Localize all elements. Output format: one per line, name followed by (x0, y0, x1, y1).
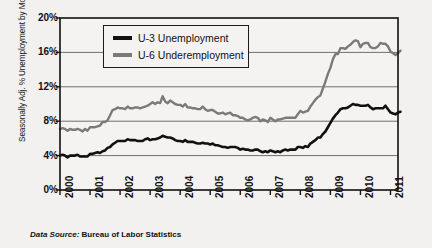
source-note: Data Source: Bureau of Labor Statistics (30, 230, 181, 239)
legend-swatch-u3 (113, 36, 132, 40)
x-tick-label: 2007 (275, 176, 285, 198)
legend-label-u3: U-3 Unemployment (138, 32, 228, 44)
x-tick-label: 2011 (395, 176, 405, 198)
source-note-text: Bureau of Labor Statistics (82, 230, 182, 239)
legend-item-u3: U-3 Unemployment (113, 30, 228, 46)
x-tick-label: 2010 (365, 176, 375, 198)
x-tick-label: 2004 (185, 176, 195, 198)
x-tick-label: 2002 (125, 176, 135, 198)
legend-swatch-u6 (113, 53, 132, 57)
legend-item-u6: U-6 Underemployment (113, 47, 244, 63)
x-tick-label: 2005 (215, 176, 225, 198)
x-tick-label: 2000 (65, 176, 75, 198)
chart-figure: Seasonally Adj. % Unemployment by Month … (0, 0, 432, 248)
legend-label-u6: U-6 Underemployment (138, 49, 244, 61)
x-tick-label: 2008 (305, 176, 315, 198)
x-tick-label: 2006 (245, 176, 255, 198)
x-tick-label: 2003 (155, 176, 165, 198)
chart-legend: U-3 Unemployment U-6 Underemployment (103, 25, 249, 68)
x-tick-label: 2009 (335, 176, 345, 198)
x-tick-label: 2001 (95, 176, 105, 198)
source-note-prefix: Data Source: (30, 230, 79, 239)
